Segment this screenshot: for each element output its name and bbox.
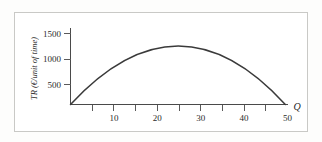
chart-plot: 1500 1000 500 10 20 30 40 50 TR (€/unit …: [0, 0, 322, 142]
y-axis-title: TR (€/unit of time): [29, 37, 39, 100]
figure-container: 1500 1000 500 10 20 30 40 50 TR (€/unit …: [0, 0, 322, 142]
x-tick-label-30: 30: [196, 113, 206, 123]
x-axis-title: Q: [293, 101, 301, 112]
x-tick-label-10: 10: [109, 113, 119, 123]
x-tick-label-50: 50: [283, 113, 293, 123]
y-tick-marks: [64, 34, 71, 85]
total-revenue-curve: [71, 46, 286, 105]
x-tick-marks: [92, 105, 266, 111]
y-tick-label-1500: 1500: [43, 29, 62, 39]
y-tick-label-500: 500: [48, 80, 62, 90]
x-tick-label-20: 20: [153, 113, 163, 123]
y-tick-label-1000: 1000: [43, 54, 62, 64]
x-tick-label-40: 40: [240, 113, 250, 123]
